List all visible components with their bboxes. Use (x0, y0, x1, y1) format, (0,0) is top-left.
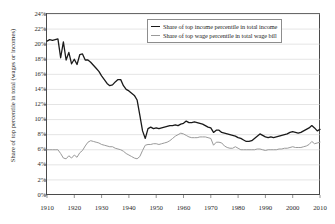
legend-item-income: Share of top income percentile in total … (151, 22, 277, 31)
legend-label-income: Share of top income percentile in total … (163, 22, 277, 31)
chart-legend: Share of top income percentile in total … (147, 19, 282, 43)
series-line-wage (47, 133, 320, 159)
y-axis-title: Share of top percentile in total (wages … (9, 8, 16, 184)
legend-item-wage: Share of top wage percentile in total wa… (151, 31, 277, 40)
x-axis-ticks (47, 195, 320, 198)
legend-label-wage: Share of top wage percentile in total wa… (163, 31, 277, 40)
legend-line-icon-income (151, 26, 160, 27)
series-line-income (47, 39, 320, 142)
legend-line-icon-wage (151, 35, 160, 36)
chart-container: 0%2%4%6%8%10%12%14%16%18%20%22%24% 19101… (0, 0, 335, 224)
